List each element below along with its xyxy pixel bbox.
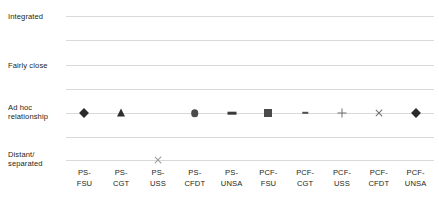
gridline bbox=[66, 160, 434, 161]
gridline bbox=[66, 40, 434, 41]
data-point-ps-fsu bbox=[79, 108, 89, 118]
y-axis-label-ad-hoc-relationship: Ad hoc relationship bbox=[8, 103, 64, 122]
y-axis-label-integrated: Integrated bbox=[8, 12, 64, 21]
data-point-ps-unsa bbox=[227, 112, 236, 115]
data-point-pcf-unsa bbox=[411, 108, 421, 118]
y-axis-label-distant-separated: Distant/ separated bbox=[8, 150, 64, 169]
data-point-pcf-cfdt bbox=[374, 109, 383, 118]
gridline bbox=[66, 16, 434, 17]
chart-container: Integrated Fairly close Ad hoc relations… bbox=[0, 0, 439, 201]
y-axis-label-line: Fairly close bbox=[8, 61, 64, 70]
gridline bbox=[66, 65, 434, 66]
y-axis-label-line: Integrated bbox=[8, 12, 64, 21]
gridline bbox=[66, 89, 434, 90]
data-point-pcf-cgt bbox=[302, 112, 307, 114]
y-axis-label-line2: relationship bbox=[8, 112, 64, 121]
data-point-pcf-uss bbox=[338, 109, 347, 118]
data-point-pcf-fsu bbox=[264, 109, 272, 117]
plot-area bbox=[66, 0, 434, 166]
x-axis-tick-pcf-unsa: PCF- UNSA bbox=[394, 168, 438, 189]
y-axis-label-line2: separated bbox=[8, 159, 64, 168]
y-axis-label-line1: Distant/ bbox=[8, 150, 64, 159]
y-axis-label-line1: Ad hoc bbox=[8, 103, 64, 112]
y-axis-label-fairly-close: Fairly close bbox=[8, 61, 64, 70]
x-axis-tick-line1: PCF- bbox=[394, 168, 438, 179]
x-axis-labels: PS- FSU PS- CGT PS- USS PS- CFDT PS- UNS… bbox=[66, 168, 434, 201]
gridline bbox=[66, 137, 434, 138]
x-axis-tick-line2: UNSA bbox=[394, 179, 438, 190]
data-point-ps-cgt bbox=[117, 109, 125, 117]
data-point-ps-uss bbox=[154, 156, 163, 165]
data-point-ps-cfdt bbox=[191, 109, 199, 117]
